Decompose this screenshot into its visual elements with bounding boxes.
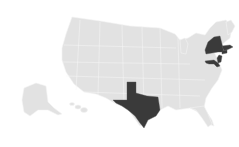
state-massachusetts bbox=[222, 45, 233, 51]
state-florida bbox=[190, 106, 212, 127]
hawaii bbox=[70, 103, 88, 113]
us-map bbox=[0, 0, 239, 147]
state-new-jersey bbox=[217, 55, 222, 63]
alaska bbox=[22, 83, 62, 116]
us-map-svg bbox=[0, 0, 239, 147]
